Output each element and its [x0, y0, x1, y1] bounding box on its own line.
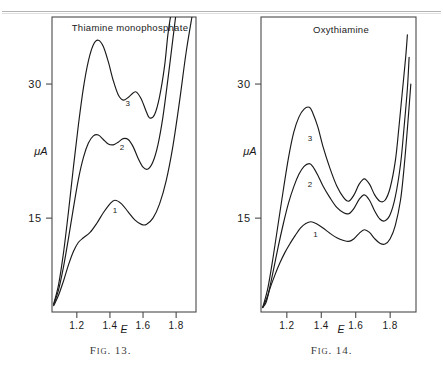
- x-axis-tick-label: 1.4: [102, 320, 117, 331]
- curve-1: [263, 84, 411, 307]
- curve-group: [263, 35, 411, 308]
- curve-3: [54, 13, 172, 304]
- x-axis-tick-label: 1.6: [348, 320, 363, 331]
- curve-label-2: 2: [308, 180, 313, 189]
- curve-3: [263, 35, 408, 308]
- plot-frame: [261, 17, 416, 312]
- x-axis-tick-label: 1.4: [314, 320, 329, 331]
- x-axis-tick-label: 1.6: [135, 320, 150, 331]
- y-axis-label: μA: [242, 145, 256, 157]
- caption-number: . 14.: [329, 344, 353, 356]
- y-axis-tick-label: 15: [28, 212, 42, 224]
- curve-label-1: 1: [113, 206, 118, 215]
- figure-14-plot: Oxythiamine1530μA1.21.41.61.8E123: [221, 0, 442, 340]
- curve-label-2: 2: [120, 143, 125, 152]
- figure-13-caption: FIG. 13.: [0, 344, 221, 356]
- x-axis-label: E: [337, 323, 345, 335]
- figure-13: Thiamine monophosphate1530μA1.21.41.61.8…: [0, 0, 221, 375]
- figure-13-plot: Thiamine monophosphate1530μA1.21.41.61.8…: [0, 0, 221, 340]
- y-axis-label: μA: [33, 145, 47, 157]
- curve-2: [54, 13, 176, 305]
- y-axis-tick-label: 30: [28, 78, 42, 90]
- caption-smallcaps: IG: [318, 346, 329, 356]
- curve-label-3: 3: [308, 134, 313, 143]
- x-axis-label: E: [120, 323, 128, 335]
- figure-14: Oxythiamine1530μA1.21.41.61.8E123 FIG. 1…: [221, 0, 442, 375]
- caption-number: . 13.: [108, 344, 132, 356]
- x-axis-tick-label: 1.8: [169, 320, 184, 331]
- y-axis-tick-label: 30: [237, 78, 251, 90]
- y-axis-tick-label: 15: [237, 212, 251, 224]
- caption-prefix: F: [90, 344, 97, 356]
- plot-title: Thiamine monophosphate: [72, 22, 188, 33]
- x-axis-tick-label: 1.8: [383, 320, 398, 331]
- curve-label-3: 3: [126, 99, 131, 108]
- curve-label-1: 1: [313, 230, 318, 239]
- x-axis-tick-label: 1.2: [279, 320, 294, 331]
- caption-prefix: F: [311, 344, 318, 356]
- x-axis-tick-label: 1.2: [69, 320, 84, 331]
- caption-smallcaps: IG: [97, 346, 108, 356]
- curve-group: [54, 13, 193, 306]
- figure-14-caption: FIG. 14.: [221, 344, 442, 356]
- plot-title: Oxythiamine: [313, 24, 369, 35]
